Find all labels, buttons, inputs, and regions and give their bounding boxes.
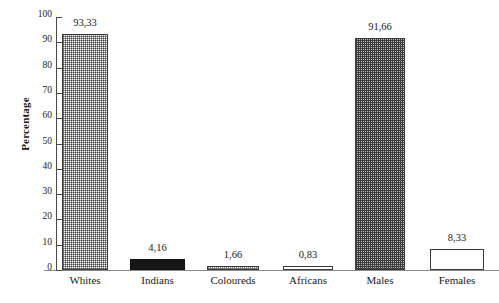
x-axis-baseline	[44, 270, 499, 271]
y-tick-mark	[56, 17, 62, 18]
bar-value-label: 0,83	[299, 250, 317, 261]
y-tick-label: 60	[12, 111, 52, 121]
bar-males[interactable]: 91,66	[355, 38, 405, 270]
y-tick-label: 40	[12, 162, 52, 172]
bar-value-label: 4,16	[148, 243, 166, 254]
bar-fill	[355, 38, 405, 270]
y-tick-label: 0	[12, 263, 52, 273]
bar-value-label: 8,33	[448, 233, 466, 244]
y-tick-label: 100	[12, 10, 52, 20]
y-tick-label: 50	[12, 137, 52, 147]
bar-africans[interactable]: 0,83	[283, 266, 333, 270]
bar-whites[interactable]: 93,33	[62, 34, 108, 270]
y-tick-label: 70	[12, 86, 52, 96]
y-tick-label: 90	[12, 35, 52, 45]
category-label-africans: Africans	[283, 275, 333, 286]
y-tick-label: 20	[12, 212, 52, 222]
bar-fill	[207, 266, 259, 270]
bar-fill	[130, 259, 185, 270]
bar-fill	[62, 34, 108, 270]
bar-indians[interactable]: 4,16	[130, 259, 185, 270]
category-label-coloureds: Coloureds	[207, 275, 259, 286]
bar-fill	[283, 266, 333, 270]
category-label-males: Males	[355, 275, 405, 286]
category-label-whites: Whites	[62, 275, 108, 286]
bar-value-label: 1,66	[224, 250, 242, 261]
bar-females[interactable]: 8,33	[430, 249, 484, 270]
bar-chart: Percentage 1009080706050403020100 93,334…	[0, 0, 499, 303]
bar-fill	[430, 249, 484, 270]
bar-value-label: 93,33	[73, 18, 97, 29]
bar-coloureds[interactable]: 1,66	[207, 266, 259, 270]
y-tick-label: 80	[12, 61, 52, 71]
bar-value-label: 91,66	[368, 22, 392, 33]
category-label-indians: Indians	[130, 275, 185, 286]
y-tick-label: 30	[12, 187, 52, 197]
y-tick-mark	[56, 270, 62, 271]
category-label-females: Females	[430, 275, 484, 286]
y-tick-label: 10	[12, 238, 52, 248]
